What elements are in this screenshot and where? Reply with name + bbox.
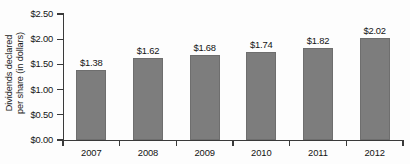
y-tick-label: $2.50	[7, 8, 53, 19]
x-tick-mark	[232, 140, 233, 146]
bar-chart: Dividends declared per share (in dollars…	[0, 0, 410, 164]
y-tick-label: $0.00	[7, 134, 53, 145]
x-tick-mark	[346, 140, 347, 146]
x-tick-label: 2008	[122, 147, 174, 158]
y-tick-mark	[57, 89, 63, 90]
y-tick-label: $1.00	[7, 84, 53, 95]
bar-value-label: $1.82	[291, 35, 345, 46]
x-tick-label: 2010	[235, 147, 287, 158]
bar	[76, 70, 106, 140]
y-tick-label: $0.50	[7, 109, 53, 120]
y-tick-mark	[57, 114, 63, 115]
x-tick-label: 2009	[179, 147, 231, 158]
bar	[246, 52, 276, 140]
x-tick-label: 2007	[65, 147, 117, 158]
bar	[190, 55, 220, 140]
y-tick-mark	[57, 64, 63, 65]
bar-value-label: $1.62	[121, 45, 175, 56]
bar	[360, 38, 390, 140]
x-tick-mark	[402, 140, 403, 146]
x-tick-mark	[119, 140, 120, 146]
y-axis-line	[63, 13, 64, 141]
bar	[133, 58, 163, 140]
x-tick-label: 2012	[349, 147, 401, 158]
y-tick-label: $1.50	[7, 58, 53, 69]
bar-value-label: $1.38	[64, 57, 118, 68]
bar-value-label: $1.74	[234, 39, 288, 50]
y-tick-label: $2.00	[7, 33, 53, 44]
x-tick-label: 2011	[292, 147, 344, 158]
x-tick-mark	[289, 140, 290, 146]
x-tick-mark	[176, 140, 177, 146]
bar-value-label: $1.68	[178, 42, 232, 53]
bar	[303, 48, 333, 140]
y-tick-mark	[57, 13, 63, 14]
x-tick-mark	[62, 140, 63, 146]
y-tick-mark	[57, 39, 63, 40]
bar-value-label: $2.02	[348, 25, 402, 36]
